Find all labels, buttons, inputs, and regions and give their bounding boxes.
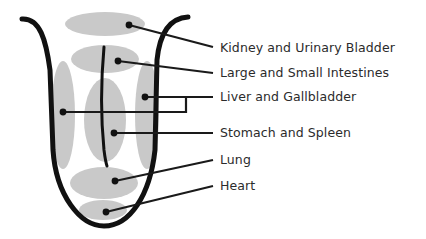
dot-kidney [126,22,133,29]
dot-lung [112,178,119,185]
dot-intestines [115,58,122,65]
dot-liver-right [142,94,149,101]
dot-stomach [111,130,118,137]
label-heart: Heart [220,179,255,193]
tongue-organ-diagram: Kidney and Urinary Bladder Large and Sma… [0,0,426,239]
label-stomach-spleen: Stomach and Spleen [220,126,351,140]
tongue-illustration [0,0,426,239]
region-lung [70,167,138,199]
region-kidney [65,12,145,36]
dot-heart [103,209,110,216]
label-liver-gallbladder: Liver and Gallbladder [220,90,356,104]
label-kidney-bladder: Kidney and Urinary Bladder [220,41,395,55]
dot-liver-left [60,109,67,116]
label-intestines: Large and Small Intestines [220,66,389,80]
region-heart [79,200,127,220]
label-lung: Lung [220,153,251,167]
